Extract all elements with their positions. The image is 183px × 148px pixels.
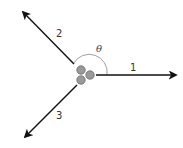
arrow-3-label: 3	[56, 110, 62, 121]
angle-theta-label: θ	[96, 43, 102, 54]
arrow-2-label: 2	[56, 28, 62, 39]
arrow-2	[23, 12, 74, 64]
atom-top	[77, 66, 85, 74]
atom-bottom	[77, 76, 85, 84]
atom-right	[86, 71, 94, 79]
arrow-1-label: 1	[130, 62, 136, 73]
molecular-geometry-diagram: 1 2 3 θ	[0, 0, 183, 148]
arrow-3	[25, 85, 77, 137]
